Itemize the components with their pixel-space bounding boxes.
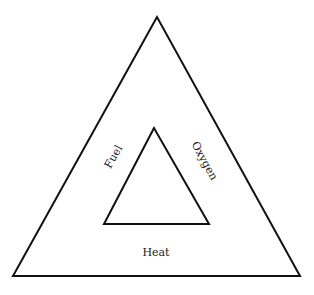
oxygen-label: Oxygen [189, 139, 221, 182]
outer-triangle [13, 17, 300, 276]
heat-label: Heat [142, 246, 170, 259]
fire-triangle-diagram: Fuel Oxygen Heat [0, 0, 314, 295]
fuel-label: Fuel [102, 142, 126, 170]
